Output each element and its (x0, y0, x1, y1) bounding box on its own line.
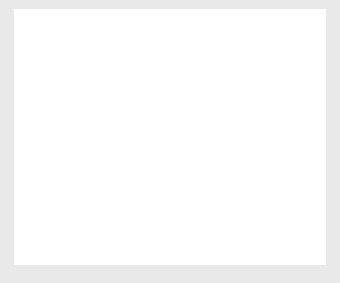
figure-panel (14, 9, 326, 265)
chart-container: −50510152025 12345678 Proportion (%) Age… (0, 0, 340, 283)
